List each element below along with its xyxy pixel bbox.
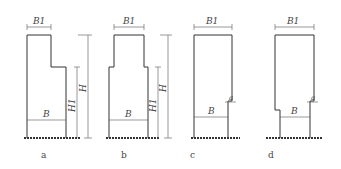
figure-a-h1-label: H1: [67, 98, 77, 113]
figure-b-caption: b: [121, 150, 127, 160]
figure-b-b-label: B: [124, 109, 132, 119]
pier-section-diagrams: B1 B H1 H a B1 B H1 H b: [0, 0, 341, 169]
figure-b-h-label: H: [158, 84, 168, 93]
figure-b-h1-label: H1: [148, 98, 158, 113]
figure-c: B1 B a c: [190, 16, 240, 160]
figure-d-b-label: B: [290, 106, 298, 116]
figure-a-b-label: B: [42, 109, 50, 119]
figure-d: B1 B a d: [266, 16, 322, 160]
figure-a: B1 B H1 H a: [24, 16, 92, 160]
figure-a-b1-label: B1: [32, 16, 45, 26]
figure-b: B1 B H1 H b: [106, 16, 172, 160]
figure-d-a-label: a: [311, 94, 315, 102]
figure-d-outline: [275, 35, 314, 138]
figure-b-b1-label: B1: [122, 16, 135, 26]
figure-c-caption: c: [190, 150, 195, 160]
figure-a-caption: a: [41, 150, 47, 160]
figure-d-caption: d: [268, 150, 274, 160]
figure-c-b1-label: B1: [205, 16, 218, 26]
figure-c-outline: [194, 35, 232, 138]
figure-c-b-label: B: [207, 106, 215, 116]
figure-d-b1-label: B1: [286, 16, 299, 26]
figure-c-a-label: a: [229, 94, 233, 102]
figure-a-outline: [27, 35, 66, 138]
figure-b-outline: [109, 35, 148, 138]
figure-a-h-label: H: [78, 84, 88, 93]
